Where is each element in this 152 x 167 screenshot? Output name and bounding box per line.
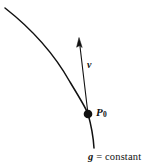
velocity-vector-arrowhead xyxy=(77,38,83,48)
velocity-vector-shaft xyxy=(80,43,88,114)
velocity-vector-label: v xyxy=(87,60,91,70)
figure-container: P0 v g = constant xyxy=(0,0,152,167)
trajectory-curve xyxy=(5,8,88,114)
point-p0-label: P0 xyxy=(96,107,107,119)
trajectory-diagram-svg xyxy=(0,0,152,167)
trajectory-curve-lower xyxy=(88,114,94,148)
gravity-field-label: g = constant xyxy=(88,152,141,163)
point-p0-marker xyxy=(84,110,93,119)
